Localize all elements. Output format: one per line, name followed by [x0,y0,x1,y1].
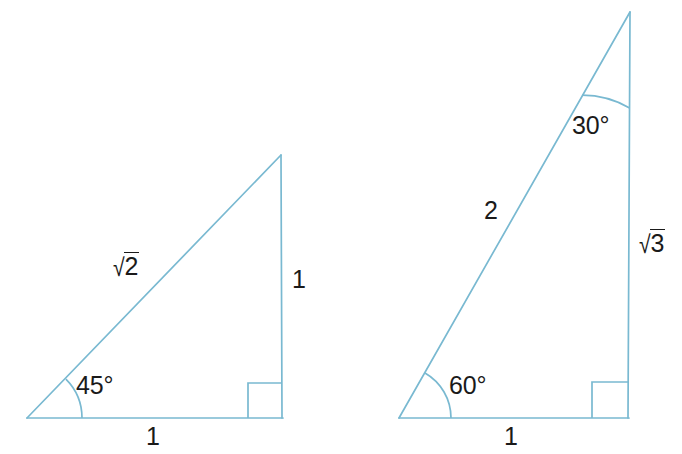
left-triangle-hypotenuse-label: √2 [112,252,139,279]
right-triangle-hypotenuse-line [399,12,630,418]
left-triangle-hypotenuse-line [27,155,281,418]
right-triangle-hypotenuse-label: 2 [484,198,498,223]
figure-canvas: √2 1 1 45° 2 √3 1 60° 30° [0,0,682,454]
right-triangle-vertical-line [628,12,630,418]
left-hypotenuse-radicand: 2 [124,252,140,279]
triangle-45-45-90-group [27,155,283,418]
left-triangle-base-label: 1 [146,424,160,449]
left-triangle-vertical-line [281,155,282,418]
right-triangle-bottom-angle-arc [425,373,451,418]
triangle-30-60-90-group [399,12,630,418]
right-triangle-top-angle-arc [582,95,629,108]
right-triangle-bottom-angle-label: 60° [449,373,486,398]
right-triangle-top-angle-label: 30° [572,113,609,138]
left-triangle-right-angle-marker [248,383,282,418]
right-triangle-right-angle-marker [592,382,628,418]
right-triangle-base-label: 1 [504,424,518,449]
left-triangle-angle-label: 45° [76,373,113,398]
left-triangle-vertical-label: 1 [292,267,306,292]
right-triangle-vertical-label: √3 [638,229,665,256]
right-vertical-radicand: 3 [650,229,666,256]
